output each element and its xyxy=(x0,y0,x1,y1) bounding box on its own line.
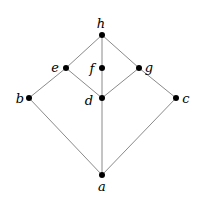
node-e xyxy=(63,65,69,71)
edge-g-h xyxy=(102,35,139,68)
node-label-e: e xyxy=(51,60,59,75)
hasse-diagram: abcdefgh xyxy=(0,0,198,205)
edge-a-c xyxy=(102,98,176,175)
node-label-a: a xyxy=(98,179,106,194)
edge-e-h xyxy=(66,35,102,68)
node-label-g: g xyxy=(145,60,153,75)
edge-d-g xyxy=(102,68,139,98)
node-d xyxy=(99,95,105,101)
node-label-h: h xyxy=(97,16,105,31)
node-label-c: c xyxy=(182,91,190,106)
node-c xyxy=(173,95,179,101)
node-b xyxy=(26,95,32,101)
node-g xyxy=(136,65,142,71)
edge-a-b xyxy=(29,98,102,175)
node-label-b: b xyxy=(16,91,24,106)
edge-b-e xyxy=(29,68,66,98)
labels: abcdefgh xyxy=(16,16,191,194)
node-f xyxy=(99,65,105,71)
node-a xyxy=(99,172,105,178)
node-h xyxy=(99,32,105,38)
node-label-d: d xyxy=(85,93,93,108)
node-label-f: f xyxy=(89,61,97,76)
edges xyxy=(29,35,176,175)
